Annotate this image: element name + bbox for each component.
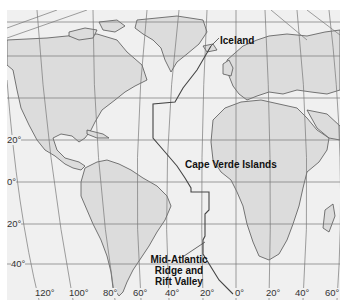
lat-tick-0: 0° <box>7 177 16 187</box>
ridge-label-line1: Mid-Atlantic <box>137 254 221 265</box>
lon-tick-80w: 80° <box>103 288 117 298</box>
lon-tick-40e: 40° <box>295 288 309 298</box>
lon-tick-60e: 60° <box>325 288 339 298</box>
lat-tick-20n: 20° <box>7 135 21 145</box>
lon-tick-120w: 120° <box>35 288 55 298</box>
lon-tick-20e: 20° <box>266 288 280 298</box>
madagascar <box>323 204 335 232</box>
lon-tick-20w: 20° <box>200 288 214 298</box>
ridge-label-line3: Rift Valley <box>137 276 221 287</box>
lon-tick-40w: 40° <box>165 288 179 298</box>
north-america <box>7 34 147 170</box>
lon-tick-0: 0° <box>235 288 244 298</box>
cape-verde-label: Cape Verde Islands <box>185 159 277 170</box>
lon-tick-100w: 100° <box>69 288 89 298</box>
lat-tick-40s: 40° <box>11 259 25 269</box>
lat-tick-20s: 20° <box>7 219 21 229</box>
iceland-label: Iceland <box>220 35 254 46</box>
lon-tick-60w: 60° <box>133 288 147 298</box>
iceland-leader-line <box>211 38 219 46</box>
world-map: Iceland Cape Verde Islands Mid-Atlantic … <box>7 10 340 300</box>
ridge-label-line2: Ridge and <box>137 265 221 276</box>
ridge-label: Mid-Atlantic Ridge and Rift Valley <box>137 254 221 287</box>
